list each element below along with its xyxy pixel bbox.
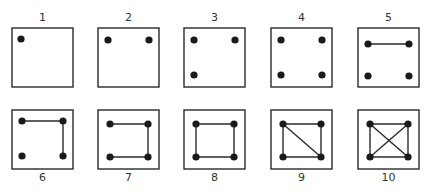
panel-1: 1 (12, 11, 73, 87)
panel-label: 2 (125, 11, 132, 24)
panel-8: 8 (184, 110, 245, 184)
panel-2: 2 (98, 11, 159, 87)
dot-tl (17, 35, 24, 42)
dot-bl (18, 152, 25, 159)
dot-tr (404, 120, 411, 127)
dot-br (59, 152, 66, 159)
panel-10: 10 (358, 110, 419, 184)
dot-tl (366, 120, 373, 127)
dot-bl (366, 153, 373, 160)
dot-tl (106, 120, 113, 127)
panel-9: 9 (271, 110, 332, 184)
dot-br (317, 153, 324, 160)
dot-br (144, 153, 151, 160)
dot-br (405, 72, 412, 79)
panel-frame (184, 110, 245, 169)
panel-label: 7 (125, 171, 132, 184)
dot-tl (18, 117, 25, 124)
dot-tr (144, 120, 151, 127)
dot-br (404, 153, 411, 160)
panel-3: 3 (184, 11, 245, 87)
panel-label: 10 (382, 171, 396, 184)
panel-6: 6 (12, 110, 73, 184)
panel-frame (98, 110, 159, 169)
dot-tl (279, 120, 286, 127)
dot-tl (190, 36, 197, 43)
dot-tr (145, 36, 152, 43)
panel-label: 8 (211, 171, 218, 184)
dot-br (318, 71, 325, 78)
panel-4: 4 (271, 11, 332, 87)
panel-label: 9 (298, 171, 305, 184)
edge-tl-br (283, 124, 321, 157)
dot-bl (192, 153, 199, 160)
panel-label: 5 (385, 11, 392, 24)
panel-label: 4 (298, 11, 305, 24)
dot-bl (279, 153, 286, 160)
panel-label: 1 (39, 11, 46, 24)
dot-tr (231, 36, 238, 43)
dot-tr (59, 117, 66, 124)
dot-bl (190, 71, 197, 78)
dot-tr (317, 120, 324, 127)
dot-tr (405, 40, 412, 47)
dot-tl (192, 120, 199, 127)
dot-bl (106, 153, 113, 160)
panel-7: 7 (98, 110, 159, 184)
dot-connection-diagram: 12345678910 (0, 0, 429, 190)
dot-bl (277, 71, 284, 78)
dot-tl (364, 40, 371, 47)
panel-label: 6 (39, 171, 46, 184)
panel-label: 3 (211, 11, 218, 24)
dot-tr (230, 120, 237, 127)
dot-tr (318, 36, 325, 43)
dot-bl (364, 72, 371, 79)
panel-5: 5 (358, 11, 419, 87)
dot-br (230, 153, 237, 160)
dot-tl (104, 36, 111, 43)
dot-tl (277, 36, 284, 43)
